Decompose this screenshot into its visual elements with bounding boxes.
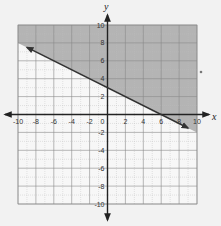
- y-tick-label: -6: [98, 165, 104, 172]
- y-tick-label: 6: [101, 57, 105, 64]
- x-tick-label: -2: [86, 118, 92, 125]
- x-tick-label: -6: [51, 118, 57, 125]
- y-tick-label: 8: [101, 39, 105, 46]
- y-tick-label: -2: [98, 129, 104, 136]
- y-axis-label: y: [103, 1, 109, 12]
- x-tick-label: 2: [123, 118, 127, 125]
- x-tick-label: 6: [159, 118, 163, 125]
- x-tick-label: -4: [69, 118, 75, 125]
- x-tick-label: 4: [141, 118, 145, 125]
- x-tick-label: 0: [101, 118, 105, 125]
- y-tick-label: 2: [101, 93, 105, 100]
- y-tick-label: -8: [98, 183, 104, 190]
- x-tick-label: -8: [33, 118, 39, 125]
- x-tick-label: 10: [193, 118, 201, 125]
- y-tick-label: -10: [94, 201, 104, 208]
- x-tick-label: 8: [177, 118, 181, 125]
- x-tick-label: -10: [13, 118, 23, 125]
- y-tick-label: 4: [101, 75, 105, 82]
- coordinate-plane: -10-8-6-4-20246810-10-8-6-4-2246810 x y: [0, 0, 221, 226]
- stray-dot: [200, 71, 203, 74]
- y-tick-label: 10: [97, 22, 105, 29]
- y-tick-label: -4: [98, 147, 104, 154]
- x-axis-label: x: [211, 111, 217, 122]
